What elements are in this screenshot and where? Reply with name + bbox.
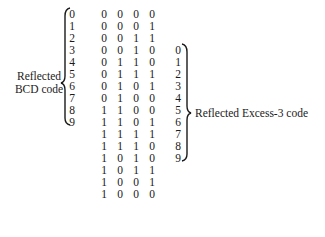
code-bit: 1 xyxy=(115,80,125,92)
code-bit: 1 xyxy=(147,68,157,80)
code-bit: 0 xyxy=(99,20,109,32)
code-bit: 0 xyxy=(99,56,109,68)
code-bit: 1 xyxy=(147,20,157,32)
code-bit: 1 xyxy=(99,104,109,116)
code-bit: 0 xyxy=(115,164,125,176)
code-bit: 1 xyxy=(115,68,125,80)
code-bit: 1 xyxy=(147,32,157,44)
code-bit: 0 xyxy=(131,104,141,116)
code-bit: 1 xyxy=(131,152,141,164)
code-bit: 1 xyxy=(131,128,141,140)
code-bit: 1 xyxy=(99,176,109,188)
code-bit: 0 xyxy=(115,152,125,164)
code-bit: 0 xyxy=(147,152,157,164)
code-bit: 0 xyxy=(131,20,141,32)
left-brace-icon xyxy=(60,6,72,126)
code-bit: 0 xyxy=(115,8,125,20)
code-bit: 1 xyxy=(131,32,141,44)
code-bit: 1 xyxy=(147,176,157,188)
code-bit: 0 xyxy=(115,32,125,44)
left-label: Reflected BCD code xyxy=(14,70,64,96)
code-bit: 1 xyxy=(115,56,125,68)
code-bit: 0 xyxy=(115,44,125,56)
code-bit: 0 xyxy=(99,44,109,56)
code-bit: 1 xyxy=(115,128,125,140)
code-bit: 1 xyxy=(99,140,109,152)
code-bit: 0 xyxy=(131,80,141,92)
right-label: Reflected Excess-3 code xyxy=(195,107,308,120)
code-bit: 1 xyxy=(147,128,157,140)
code-bit: 0 xyxy=(131,176,141,188)
code-bit: 0 xyxy=(115,20,125,32)
code-bit: 1 xyxy=(115,140,125,152)
code-bit: 0 xyxy=(147,104,157,116)
code-bit: 0 xyxy=(115,188,125,200)
code-bit: 1 xyxy=(147,116,157,128)
code-bit: 0 xyxy=(99,8,109,20)
code-bit: 1 xyxy=(99,188,109,200)
code-bit: 1 xyxy=(147,80,157,92)
code-bit: 0 xyxy=(147,140,157,152)
code-bit: 1 xyxy=(99,164,109,176)
code-bit: 0 xyxy=(131,8,141,20)
code-bit: 0 xyxy=(131,116,141,128)
code-bit: 0 xyxy=(131,92,141,104)
code-bit: 1 xyxy=(115,92,125,104)
code-bit: 0 xyxy=(147,92,157,104)
code-bit: 0 xyxy=(147,56,157,68)
code-bit: 1 xyxy=(131,164,141,176)
code-bit: 1 xyxy=(115,104,125,116)
code-bit: 0 xyxy=(147,188,157,200)
left-label-line2: BCD code xyxy=(14,83,64,96)
code-bit: 1 xyxy=(131,140,141,152)
code-bit: 1 xyxy=(147,164,157,176)
code-bit: 1 xyxy=(131,44,141,56)
code-bit: 1 xyxy=(99,128,109,140)
code-bit: 0 xyxy=(99,92,109,104)
code-bit: 0 xyxy=(131,188,141,200)
left-label-line1: Reflected xyxy=(14,70,64,83)
code-bit: 1 xyxy=(115,116,125,128)
code-bit: 0 xyxy=(147,44,157,56)
code-bit: 0 xyxy=(147,8,157,20)
code-bit: 1 xyxy=(131,68,141,80)
code-bit: 0 xyxy=(115,176,125,188)
code-bit: 1 xyxy=(99,116,109,128)
code-bit: 0 xyxy=(99,68,109,80)
code-bit: 0 xyxy=(99,80,109,92)
right-brace-icon xyxy=(181,42,193,162)
code-bit: 0 xyxy=(99,32,109,44)
code-bit: 1 xyxy=(99,152,109,164)
code-bit: 1 xyxy=(131,56,141,68)
